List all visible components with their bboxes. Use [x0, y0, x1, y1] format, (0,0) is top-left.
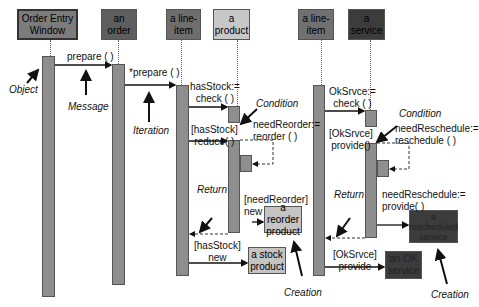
annotation-condition-1: Condition: [256, 98, 298, 110]
label-need-reorder: needReorder:= reorder ( ): [253, 119, 320, 143]
annotation-condition-2: Condition: [399, 108, 441, 120]
annotation-object: Object: [9, 84, 38, 96]
label-need-reschedule: needReschedule:= reschedule ( ): [395, 123, 479, 147]
label-has-stock-new: [hasStock] new: [194, 240, 241, 264]
label-prepare-iter: *prepare ( ): [129, 67, 180, 79]
label-ok-srvce-check: OkSrvce:= check ( ): [329, 86, 376, 110]
label-has-stock-check: hasStock:= check ( ): [190, 81, 240, 105]
annotation-return-1: Return: [197, 184, 227, 196]
label-need-reschedule-provide: needReschedule:= provide( ): [382, 189, 466, 213]
label-ok-srvce-provide: [OkSrvce] provide(): [329, 128, 373, 152]
label-has-stock-reduce: [hasStock] reduce( ): [191, 124, 238, 148]
self-call-reorder: [240, 140, 273, 164]
label-ok-srvce-provide-2: [OkSrvce] provide: [333, 249, 377, 273]
annotation-message: Message: [68, 101, 109, 113]
annotation-iteration: Iteration: [133, 125, 169, 137]
label-need-reorder-new: [needReorder] new: [244, 194, 308, 218]
annotation-creation-1: Creation: [284, 287, 322, 299]
annotation-creation-2: Creation: [431, 289, 469, 301]
label-prepare: prepare ( ): [67, 51, 114, 63]
annotation-return-2: Return: [334, 189, 364, 201]
